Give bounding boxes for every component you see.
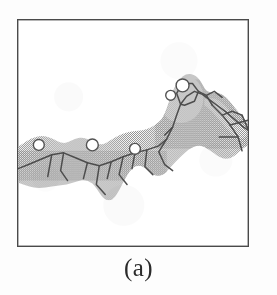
electron-density-envelope	[18, 20, 248, 246]
atom-ring-4	[166, 90, 176, 100]
atom-ring-1	[33, 139, 44, 150]
molecule-density-artwork	[18, 20, 248, 246]
molecule-svg	[18, 20, 248, 246]
figure-panel	[17, 19, 249, 247]
atom-ring-5	[176, 79, 189, 92]
atom-ring-3	[130, 143, 141, 154]
figure-container: (a)	[0, 0, 277, 295]
figure-caption: (a)	[0, 252, 277, 284]
atom-ring-2	[86, 139, 98, 151]
